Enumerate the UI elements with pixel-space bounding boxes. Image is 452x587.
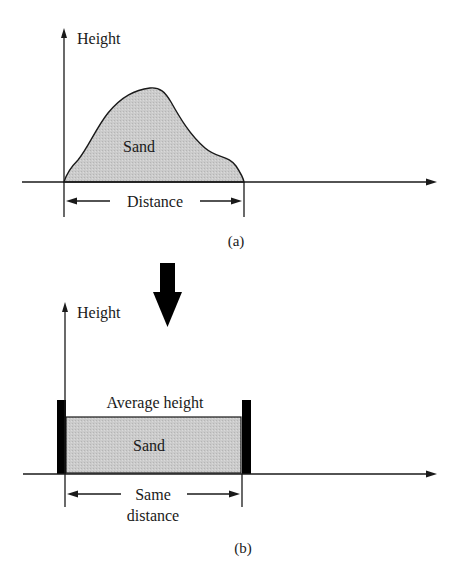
diagram-canvas: Height Sand Distance (a) Height Average … [0,0,452,587]
x-axis-arrowhead-icon [426,471,437,478]
dimension-arrowhead-left-icon [66,198,77,205]
distance-label: Distance [127,193,183,210]
y-axis-arrowhead-icon [61,28,67,38]
panel-a: Height Sand Distance (a) [22,28,437,250]
average-height-label: Average height [107,394,205,412]
y-axis-arrowhead-icon [62,302,68,312]
y-axis-label: Height [77,304,121,322]
same-label: Same [135,486,171,503]
sand-mound [64,88,244,182]
panel-b: Height Average height Sand Same distance… [23,302,437,557]
dimension-arrowhead-left-icon [67,491,78,498]
sand-label: Sand [123,138,155,155]
distance-label: distance [127,507,179,524]
down-arrow-icon [153,263,182,327]
dimension-arrowhead-right-icon [229,491,240,498]
right-post [242,400,251,474]
caption-a: (a) [228,233,245,250]
x-axis-arrowhead-icon [426,179,437,186]
y-axis-label: Height [77,30,121,48]
sand-label: Sand [133,437,165,454]
caption-b: (b) [234,540,252,557]
dimension-arrowhead-right-icon [231,198,242,205]
